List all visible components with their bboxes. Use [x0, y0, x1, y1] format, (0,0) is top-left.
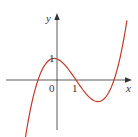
- function-graph: y x 0 1 1: [0, 0, 138, 137]
- cubic-curve: [21, 20, 127, 137]
- origin-label: 0: [49, 82, 55, 94]
- y-axis-label: y: [45, 12, 51, 24]
- x-axis-label: x: [125, 82, 131, 94]
- x-tick-label-1: 1: [72, 82, 78, 94]
- y-axis-arrow-icon: [54, 13, 59, 20]
- y-tick-label-1: 1: [49, 52, 55, 64]
